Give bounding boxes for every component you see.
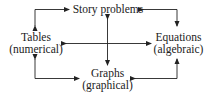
node-title: Equations: [150, 31, 207, 43]
arrow-tables-graphs: [35, 59, 79, 79]
node-title: Story problems: [72, 3, 144, 15]
node-subtitle: (graphical): [80, 79, 135, 91]
node-tables: Tables (numerical): [4, 31, 68, 55]
node-equations: Equations (algebraic): [150, 31, 207, 55]
arrow-graphs-equations: [135, 59, 177, 79]
arrow-story-equations: [143, 10, 177, 27]
node-subtitle: (numerical): [4, 43, 68, 55]
node-title: Tables: [4, 31, 68, 43]
node-title: Graphs: [80, 67, 135, 79]
node-story-problems: Story problems: [72, 3, 144, 15]
node-graphs: Graphs (graphical): [80, 67, 135, 91]
node-subtitle: (algebraic): [150, 43, 207, 55]
arrow-tables-story: [35, 10, 69, 27]
